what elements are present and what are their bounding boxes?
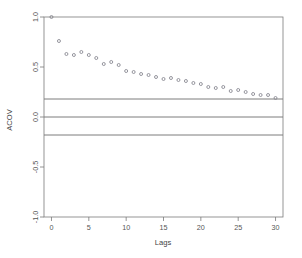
x-tick-label: 20 [197, 223, 205, 232]
acov-plot-figure: 051015202530 -1.0-0.50.00.51.0 Lags ACOV [0, 0, 302, 258]
plot-canvas: 051015202530 -1.0-0.50.00.51.0 Lags ACOV [0, 0, 302, 258]
x-axis-title: Lags [155, 238, 172, 247]
x-tick-label: 25 [234, 223, 242, 232]
x-tick-label: 5 [87, 223, 91, 232]
plot-background [0, 0, 302, 258]
y-tick-label: 0.0 [31, 112, 40, 122]
x-tick-label: 30 [272, 223, 280, 232]
y-tick-label: 0.5 [31, 62, 40, 72]
y-tick-label: -0.5 [31, 161, 40, 173]
y-axis-title: ACOV [5, 108, 14, 130]
y-tick-label: -1.0 [31, 211, 40, 223]
y-tick-label: 1.0 [31, 12, 40, 22]
x-tick-label: 10 [122, 223, 130, 232]
x-tick-label: 15 [160, 223, 168, 232]
x-tick-label: 0 [49, 223, 53, 232]
